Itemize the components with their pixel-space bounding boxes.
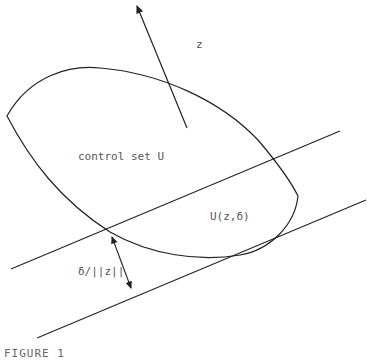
- figure-caption: FIGURE 1: [4, 347, 65, 360]
- upper-hyperplane: [11, 131, 340, 269]
- label-distance: δ/||z||: [78, 265, 124, 278]
- label-z: z: [196, 38, 203, 51]
- label-subset: U(z,δ): [210, 210, 250, 223]
- normal-vector-z: [137, 6, 187, 128]
- diagram-canvas: [0, 0, 370, 362]
- figure-diagram: z control set U U(z,δ) δ/||z|| FIGURE 1: [0, 0, 370, 362]
- label-control-set: control set U: [78, 150, 164, 163]
- distance-marker: [112, 237, 131, 288]
